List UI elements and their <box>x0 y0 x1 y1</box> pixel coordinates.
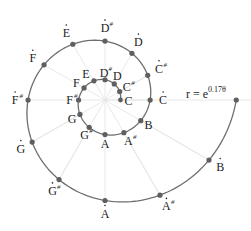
svg-text:A: A <box>101 137 110 151</box>
svg-text:#: # <box>109 65 113 73</box>
svg-text:F: F <box>73 76 80 90</box>
note-label-a: A <box>101 137 110 151</box>
svg-text:#: # <box>57 183 61 191</box>
note-dot <box>117 89 122 94</box>
octave-dot-icon <box>158 60 160 62</box>
formula-base: r = e <box>186 87 208 101</box>
formula-exponent: 0.17θ <box>208 85 226 94</box>
note-label-a-octave: A <box>101 205 110 221</box>
svg-text:#: # <box>74 92 78 100</box>
svg-text:D: D <box>100 66 109 80</box>
svg-text:G: G <box>17 142 26 156</box>
note-label-a-sharp: A# <box>124 133 137 148</box>
octave-dot-icon <box>104 19 106 21</box>
note-dot <box>129 51 134 56</box>
svg-text:C: C <box>123 80 131 94</box>
octave-dot-icon <box>162 91 164 93</box>
note-label-d-sharp: D# <box>100 65 113 80</box>
octave-dot-icon <box>104 205 106 207</box>
note-labels: CC#DD#EFF#GG#AA#BCC#DD#EFF#GG#AA#B <box>12 19 224 220</box>
note-dot <box>148 97 153 102</box>
note-dot <box>138 118 143 123</box>
svg-text:E: E <box>82 67 89 81</box>
svg-text:D: D <box>134 35 143 49</box>
note-label-g-sharp-octave: G# <box>48 182 61 198</box>
note-dot <box>145 73 150 78</box>
note-dot <box>102 38 107 43</box>
svg-text:#: # <box>89 127 93 135</box>
svg-text:B: B <box>144 118 152 132</box>
formula: r = e0.17θ <box>186 85 226 101</box>
note-dot <box>206 157 211 162</box>
note-dot <box>25 97 30 102</box>
note-label-e: E <box>82 67 89 81</box>
note-dot <box>41 62 46 67</box>
svg-text:F: F <box>66 93 73 107</box>
note-label-g-sharp: G# <box>80 127 93 142</box>
note-label-f-octave: F <box>29 50 36 66</box>
note-label-f-sharp: F# <box>66 92 78 107</box>
svg-text:C: C <box>124 94 132 108</box>
svg-text:#: # <box>131 79 135 87</box>
svg-text:A: A <box>162 199 171 213</box>
note-label-b-octave: B <box>216 158 224 174</box>
svg-text:G: G <box>68 112 77 126</box>
svg-text:A: A <box>124 134 133 148</box>
svg-text:G: G <box>48 184 57 198</box>
note-dots <box>25 38 238 203</box>
svg-text:#: # <box>20 92 24 100</box>
svg-text:#: # <box>110 20 114 28</box>
svg-text:E: E <box>63 26 70 40</box>
note-dot <box>118 98 123 103</box>
svg-text:D: D <box>113 69 122 83</box>
note-label-c: C <box>124 94 132 108</box>
note-label-g: G <box>68 112 77 126</box>
svg-text:F: F <box>29 51 36 65</box>
spiral-canvas: CC#DD#EFF#GG#AA#BCC#DD#EFF#GG#AA#B r = e… <box>0 0 251 231</box>
note-label-f-sharp-octave: F# <box>12 91 24 107</box>
svg-text:C: C <box>159 93 167 107</box>
note-dot <box>70 42 75 47</box>
note-label-g-octave: G <box>17 140 26 156</box>
svg-text:A: A <box>101 207 110 221</box>
note-label-c-octave: C <box>159 91 167 107</box>
octave-dot-icon <box>166 198 168 200</box>
octave-dot-icon <box>32 50 34 52</box>
octave-dot-icon <box>66 24 68 26</box>
spiral-diagram: CC#DD#EFF#GG#AA#BCC#DD#EFF#GG#AA#B r = e… <box>0 0 251 231</box>
svg-text:#: # <box>164 61 168 69</box>
octave-dot-icon <box>138 33 140 35</box>
note-label-a-sharp-octave: A# <box>162 198 175 214</box>
note-dot <box>30 139 35 144</box>
note-label-d-octave: D <box>134 33 143 49</box>
note-dot <box>77 112 82 117</box>
note-label-c-sharp: C# <box>123 79 136 94</box>
note-dot <box>81 85 86 90</box>
svg-text:D: D <box>101 21 110 35</box>
note-dot <box>56 177 61 182</box>
note-label-d: D <box>113 69 122 83</box>
note-label-f: F <box>73 76 80 90</box>
svg-text:F: F <box>12 93 19 107</box>
note-label-e-octave: E <box>63 24 70 40</box>
octave-dot-icon <box>52 182 54 184</box>
octave-dot-icon <box>219 158 221 160</box>
svg-text:C: C <box>155 62 163 76</box>
svg-text:#: # <box>171 198 175 206</box>
octave-dot-icon <box>14 91 16 93</box>
note-dot <box>91 78 96 83</box>
note-label-d-sharp-octave: D# <box>101 19 114 35</box>
note-dot <box>157 193 162 198</box>
note-label-c-sharp-octave: C# <box>155 60 168 76</box>
svg-text:#: # <box>133 133 137 141</box>
svg-text:G: G <box>80 128 89 142</box>
svg-text:B: B <box>216 160 224 174</box>
octave-dot-icon <box>20 140 22 142</box>
note-dot <box>102 198 107 203</box>
note-dot <box>234 97 239 102</box>
note-label-b: B <box>144 118 152 132</box>
